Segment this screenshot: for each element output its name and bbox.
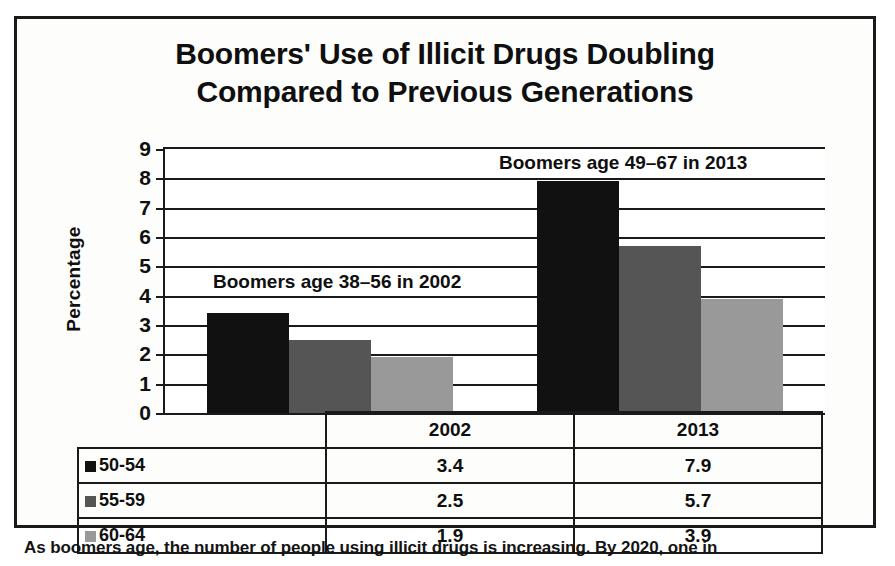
legend-entry-50-54: 50-54 (78, 448, 326, 483)
gridline (165, 266, 825, 268)
bar-50-54-2002 (207, 313, 289, 413)
y-axis-title: Percentage (63, 147, 89, 411)
bar-55-59-2002 (289, 340, 371, 413)
y-tick-label: 2 (139, 342, 151, 366)
table-row-categories: 20022013 (78, 412, 822, 448)
y-tick-label: 7 (139, 196, 151, 220)
y-tick-mark (156, 296, 165, 298)
gridline (165, 208, 825, 210)
annotation-boomers-2013: Boomers age 49–67 in 2013 (495, 152, 751, 174)
y-tick-mark (156, 237, 165, 239)
chart-title-line-1: Boomers' Use of Illicit Drugs Doubling (17, 35, 873, 73)
legend-label: 50-54 (99, 455, 145, 475)
chart-title-line-2: Compared to Previous Generations (17, 73, 873, 111)
y-tick-mark (156, 149, 165, 151)
y-tick-mark (156, 325, 165, 327)
annotation-boomers-2002: Boomers age 38–56 in 2002 (209, 271, 465, 293)
gridline (165, 296, 825, 298)
table-category-header: 2002 (326, 412, 574, 448)
table-cell-value: 5.7 (574, 483, 822, 518)
table-category-header: 2013 (574, 412, 822, 448)
bar-60-64-2002 (371, 357, 453, 413)
table-cell-value: 3.4 (326, 448, 574, 483)
table-row: 55-592.55.7 (78, 483, 822, 518)
y-tick-label: 6 (139, 225, 151, 249)
gridline (165, 178, 825, 180)
page-title: Boomers' Use of Illicit Drugs Doubling C… (17, 35, 873, 110)
y-tick-label: 9 (139, 137, 151, 161)
table-cell-value: 2.5 (326, 483, 574, 518)
table-cell-value: 7.9 (574, 448, 822, 483)
bar-55-59-2013 (619, 246, 701, 413)
y-tick-mark (156, 178, 165, 180)
y-tick-mark (156, 354, 165, 356)
y-tick-mark (156, 384, 165, 386)
table-corner-cell (78, 412, 326, 448)
bar-50-54-2013 (537, 181, 619, 413)
table-row: 50-543.47.9 (78, 448, 822, 483)
y-tick-mark (156, 266, 165, 268)
legend-swatch-icon (85, 496, 96, 507)
legend-swatch-icon (85, 461, 96, 472)
y-tick-mark (156, 208, 165, 210)
y-tick-label: 1 (139, 372, 151, 396)
bar-60-64-2013 (701, 299, 783, 413)
figure-caption: As boomers age, the number of people usi… (24, 538, 874, 558)
data-table: 2002201350-543.47.955-592.55.760-641.93.… (77, 411, 823, 554)
figure-frame: Boomers' Use of Illicit Drugs Doubling C… (14, 16, 876, 528)
legend-label: 55-59 (99, 490, 145, 510)
gridline (165, 237, 825, 239)
y-tick-label: 8 (139, 166, 151, 190)
y-tick-label: 3 (139, 313, 151, 337)
y-tick-label: 5 (139, 254, 151, 278)
y-tick-label: 4 (139, 284, 151, 308)
plot-area: 0123456789 Boomers age 38–56 in 2002 Boo… (163, 147, 825, 415)
legend-entry-55-59: 55-59 (78, 483, 326, 518)
